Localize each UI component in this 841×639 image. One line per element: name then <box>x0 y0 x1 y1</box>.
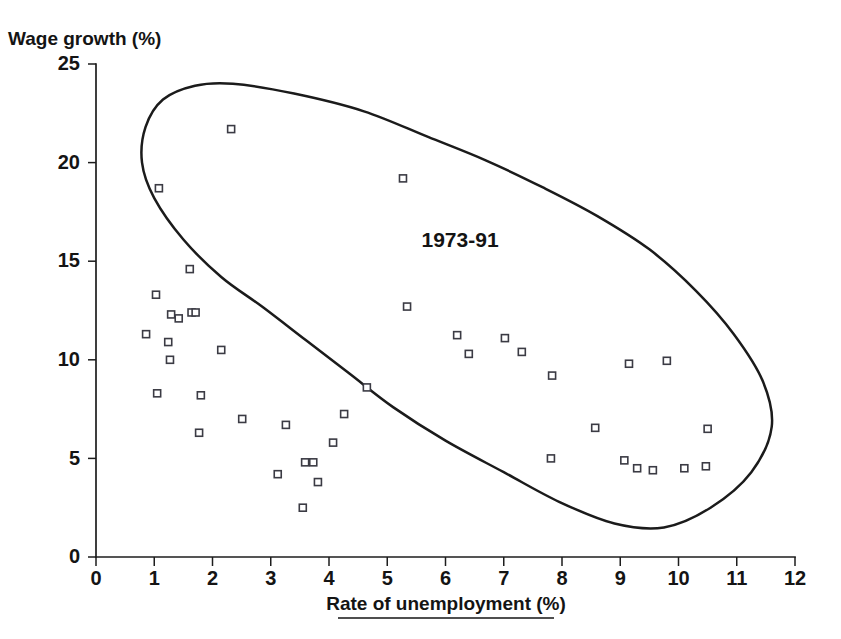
x-tick-label: 5 <box>382 567 393 589</box>
plot-axes <box>96 64 795 557</box>
y-tick-label: 0 <box>69 545 80 567</box>
scatter-point <box>399 175 406 182</box>
scatter-point <box>274 471 281 478</box>
x-tick-label: 2 <box>207 567 218 589</box>
wage-growth-unemployment-scatter-chart: Wage growth (%) 0510152025 0123456789101… <box>0 0 841 639</box>
scatter-point <box>302 459 309 466</box>
scatter-point <box>663 357 670 364</box>
x-tick-label: 12 <box>784 567 806 589</box>
scatter-point <box>518 348 525 355</box>
x-tick-label: 3 <box>265 567 276 589</box>
y-axis-title: Wage growth (%) <box>8 28 161 49</box>
y-tick-label: 5 <box>69 447 80 469</box>
x-tick-label: 1 <box>149 567 160 589</box>
scatter-point <box>228 126 235 133</box>
x-tick-label: 7 <box>498 567 509 589</box>
scatter-point <box>649 467 656 474</box>
annotation-group: 1973-91 <box>422 228 499 251</box>
scatter-point <box>704 425 711 432</box>
scatter-point <box>625 360 632 367</box>
scatter-point <box>549 372 556 379</box>
x-tick-label: 4 <box>323 567 335 589</box>
y-tick-label: 10 <box>58 348 80 370</box>
scatter-point <box>239 415 246 422</box>
scatter-point <box>592 424 599 431</box>
scatter-point <box>341 411 348 418</box>
scatter-point <box>547 455 554 462</box>
x-tick-label: 0 <box>90 567 101 589</box>
scatter-point <box>197 392 204 399</box>
x-axis-title: Rate of unemployment (%) <box>326 593 566 614</box>
scatter-point <box>282 421 289 428</box>
scatter-point <box>681 465 688 472</box>
x-axis-ticks: 0123456789101112 <box>90 557 806 589</box>
scatter-point <box>702 463 709 470</box>
scatter-point <box>186 266 193 273</box>
scatter-point <box>465 350 472 357</box>
scatter-point <box>155 185 162 192</box>
scatter-point <box>404 303 411 310</box>
scatter-point <box>196 429 203 436</box>
period-annotation-label: 1973-91 <box>422 228 499 251</box>
y-axis-title-group: Wage growth (%) <box>8 28 161 49</box>
y-axis-ticks: 0510152025 <box>58 52 96 567</box>
scatter-point <box>218 346 225 353</box>
scatter-point <box>454 332 461 339</box>
scatter-point <box>175 315 182 322</box>
scatter-point <box>363 384 370 391</box>
scatter-point <box>168 311 175 318</box>
scatter-point <box>154 390 161 397</box>
y-tick-label: 20 <box>58 151 80 173</box>
chart-canvas: Wage growth (%) 0510152025 0123456789101… <box>0 0 841 639</box>
scatter-point <box>501 335 508 342</box>
y-tick-label: 25 <box>58 52 80 74</box>
x-tick-label: 6 <box>440 567 451 589</box>
scatter-point <box>621 457 628 464</box>
scatter-point <box>153 291 160 298</box>
x-tick-label: 8 <box>556 567 567 589</box>
scatter-point <box>299 504 306 511</box>
scatter-point <box>314 479 321 486</box>
scatter-point <box>143 331 150 338</box>
y-tick-label: 15 <box>58 249 80 271</box>
scatter-point <box>166 356 173 363</box>
scatter-point <box>165 339 172 346</box>
x-axis-title-group: Rate of unemployment (%) <box>326 593 566 618</box>
x-tick-label: 10 <box>667 567 689 589</box>
scatter-point <box>192 309 199 316</box>
x-tick-label: 11 <box>726 567 747 589</box>
data-envelope-outline <box>141 83 772 528</box>
scatter-markers-group <box>143 126 712 512</box>
scatter-point <box>634 465 641 472</box>
scatter-point <box>330 439 337 446</box>
x-tick-label: 9 <box>615 567 626 589</box>
scatter-point <box>310 459 317 466</box>
